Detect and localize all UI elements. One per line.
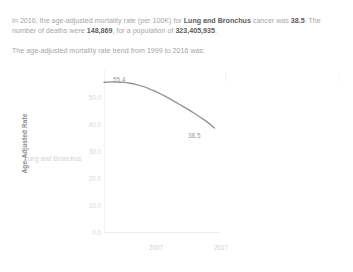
y-axis-tick-label: 20.0	[89, 175, 101, 182]
summary-text-part-5: .	[215, 27, 217, 35]
y-axis-tick-label: 0.0	[92, 229, 101, 236]
y-axis-tick-label: 50.0	[89, 94, 101, 101]
population-value: 323,405,935	[175, 27, 215, 35]
scan-artifact	[225, 72, 226, 81]
start-value-label: 55.4	[113, 76, 125, 83]
y-axis-title: Age-Adjusted Rate	[21, 96, 28, 192]
x-axis-tick-label: 2017	[214, 244, 228, 251]
y-axis-tick-label: 10.0	[89, 202, 101, 209]
death-count-value: 148,869	[87, 27, 113, 35]
narrative-block: In 2016, the age-adjusted mortality rate…	[12, 16, 344, 56]
plot-region: 55.4 38.5 0.010.020.030.040.050.02007201…	[104, 70, 234, 232]
mortality-trend-chart: Lung and Bronchus Age-Adjusted Rate 55.4…	[0, 66, 353, 272]
trend-intro-paragraph: The age-adjusted mortality rate trend fr…	[12, 46, 344, 56]
scan-artifact	[338, 74, 339, 81]
x-axis-line	[104, 232, 220, 233]
summary-text-part-4: , for a population of	[112, 27, 175, 35]
y-axis-tick-label: 40.0	[89, 121, 101, 128]
end-value-label: 38.5	[188, 132, 200, 139]
summary-text-part-1: In 2016, the age-adjusted mortality rate…	[12, 17, 184, 25]
trend-line-path	[104, 82, 215, 128]
summary-text-part-2: cancer was	[251, 17, 291, 25]
x-axis-tick-label: 2007	[149, 244, 163, 251]
summary-paragraph: In 2016, the age-adjusted mortality rate…	[12, 16, 344, 37]
chart-row-label: Lung and Bronchus	[24, 154, 84, 163]
y-axis-tick-label: 30.0	[89, 148, 101, 155]
trend-line-svg	[104, 70, 234, 232]
cancer-type-name: Lung and Bronchus	[184, 17, 251, 25]
mortality-rate-value: 38.5	[291, 17, 305, 25]
